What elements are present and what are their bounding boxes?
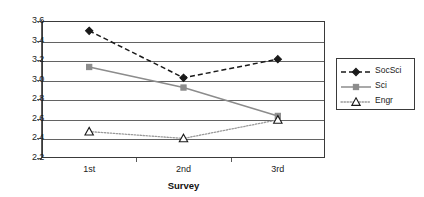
y-tick-label: 2.4 [8,132,44,142]
y-tick-label: 3.0 [8,74,44,84]
legend-item-Engr[interactable]: Engr [340,93,413,107]
x-tick-mark [136,158,137,162]
x-tick-label-1st: 1st [59,164,119,174]
legend-marker-Engr-icon [340,94,372,106]
chart-legend: SocSciSciEngr [336,58,415,110]
legend-item-SocSci[interactable]: SocSci [340,63,413,77]
y-tick-label: 3.2 [8,54,44,64]
x-axis-title: Survey [42,180,325,191]
y-tick-label: 2.6 [8,113,44,123]
data-point-Sci-2nd [181,85,186,90]
series-Engr [85,116,282,142]
x-tick-label-2nd: 2nd [154,164,214,174]
legend-marker-SocSci-icon [340,64,372,76]
x-tick-label-3rd: 3rd [248,164,308,174]
data-point-SocSci-1st [86,27,93,34]
data-point-SocSci-2nd [180,74,187,81]
y-tick-label: 2.8 [8,93,44,103]
y-tick-label: 3.6 [8,15,44,25]
series-Sci [87,64,281,118]
legend-label-SocSci: SocSci [375,65,401,75]
x-tick-mark [231,158,232,162]
legend-label-Engr: Engr [375,95,393,105]
legend-label-Sci: Sci [375,80,387,90]
data-point-SocSci-3rd [274,56,281,63]
legend-marker-Sci-icon [340,79,372,91]
series-line-SocSci [89,31,278,78]
legend-item-Sci[interactable]: Sci [340,78,413,92]
y-tick-label: 2.2 [8,152,44,162]
y-tick-label: 3.4 [8,35,44,45]
chart-figure: Survey SocSciSciEngr 3.63.43.23.02.82.62… [0,0,424,197]
data-point-Sci-1st [87,64,92,69]
